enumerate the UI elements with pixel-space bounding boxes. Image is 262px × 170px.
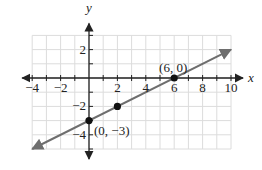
y-axis-label: y: [84, 0, 92, 15]
coordinate-plane: −4−22468102−2−4xy(0, −3)(6, 0): [0, 0, 262, 170]
x-tick-label: −2: [54, 80, 68, 95]
y-tick-label: −2: [72, 98, 86, 113]
x-axis-label: x: [247, 70, 254, 85]
point-label: (6, 0): [159, 60, 187, 75]
x-tick-label: 8: [199, 80, 206, 95]
data-point: [114, 103, 121, 110]
x-tick-label: 2: [114, 80, 121, 95]
y-tick-label: −4: [72, 127, 86, 142]
x-tick-label: 4: [143, 80, 150, 95]
x-tick-label: −4: [25, 80, 39, 95]
x-tick-label: 6: [171, 80, 178, 95]
x-tick-label: 10: [225, 80, 238, 95]
data-point: [85, 117, 92, 124]
point-label: (0, −3): [94, 123, 130, 138]
y-tick-label: 2: [80, 42, 87, 57]
